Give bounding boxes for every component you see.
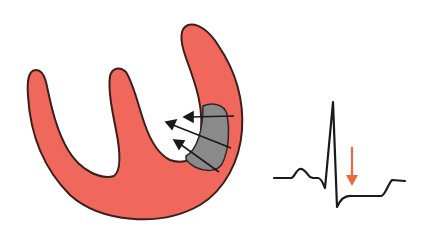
arrow-2-head-icon (166, 120, 176, 129)
diagram-canvas (0, 0, 428, 233)
arrow-1 (190, 116, 234, 117)
st-depression-marker (346, 147, 358, 186)
diagram-svg (0, 0, 428, 233)
arrow-3-head-icon (174, 140, 184, 149)
st-arrow-head-icon (346, 175, 358, 186)
ecg-waveform (274, 102, 405, 207)
arrow-1-head-icon (184, 112, 193, 122)
